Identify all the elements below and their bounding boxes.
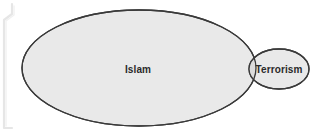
left-edge-bracket-icon — [4, 4, 12, 128]
venn-diagram: Islam Terrorism — [0, 0, 322, 139]
edge-artifact-group — [4, 4, 14, 128]
set-label-terrorism: Terrorism — [256, 64, 303, 75]
set-label-islam: Islam — [125, 64, 151, 75]
left-edge-bracket-highlight-icon — [6, 6, 14, 126]
